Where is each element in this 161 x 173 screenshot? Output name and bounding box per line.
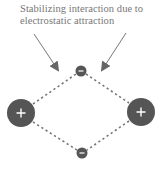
interaction-lines [33,74,129,150]
anion-top [76,66,87,77]
arrow-left-icon [34,34,58,70]
interaction-line-right-bottom [87,121,129,150]
cation-left [7,99,35,127]
interaction-line-left-top [33,74,76,104]
pointer-arrows [34,33,126,70]
interaction-line-bottom-left [33,122,77,150]
ion-diagram [0,0,161,173]
arrow-right-icon [102,33,126,70]
anion-bottom [77,148,88,159]
cation-right [127,98,155,126]
interaction-line-top-right [86,74,129,103]
